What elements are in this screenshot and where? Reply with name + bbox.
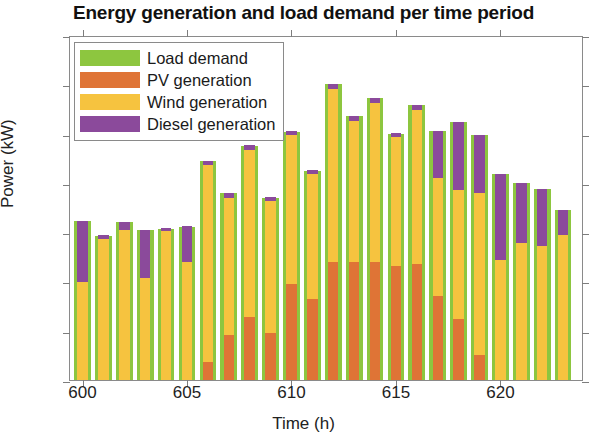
bar-group — [450, 35, 467, 380]
bar-generation-stack — [391, 35, 401, 380]
bar-segment-wind — [244, 150, 254, 317]
y-axis-tick — [63, 185, 70, 186]
legend-swatch-load-demand — [80, 50, 140, 66]
chart-figure: Energy generation and load demand per ti… — [0, 0, 607, 444]
y-axis-tick — [63, 333, 70, 334]
bar-segment-pv — [203, 362, 213, 380]
legend-label-wind-generation: Wind generation — [147, 94, 267, 111]
bar-generation-stack — [349, 35, 359, 380]
legend-label-diesel-generation: Diesel generation — [147, 116, 275, 133]
x-axis-tick-label: 615 — [382, 383, 410, 403]
bar-segment-diesel — [161, 228, 171, 231]
x-axis-tick-label: 605 — [173, 383, 201, 403]
y-axis-tick — [582, 382, 589, 383]
bar-segment-diesel — [307, 170, 317, 174]
y-axis-tick — [582, 333, 589, 334]
y-axis-tick — [63, 234, 70, 235]
bar-segment-diesel — [537, 189, 547, 246]
y-axis-tick — [582, 37, 589, 38]
y-axis-tick — [582, 136, 589, 137]
y-axis-title: Power (kW) — [0, 119, 18, 208]
chart-legend: Load demand PV generation Wind generatio… — [74, 42, 284, 141]
x-axis-tick — [396, 30, 397, 37]
bar-group — [555, 35, 572, 380]
bar-group — [513, 35, 530, 380]
bar-segment-wind — [453, 190, 463, 319]
y-axis-tick — [582, 185, 589, 186]
bar-generation-stack — [370, 35, 380, 380]
bar-segment-diesel — [244, 145, 254, 150]
bar-segment-wind — [328, 89, 338, 262]
y-axis-tick — [63, 37, 70, 38]
bar-segment-pv — [244, 317, 254, 380]
bar-segment-diesel — [224, 193, 234, 198]
bar-segment-pv — [286, 284, 296, 380]
bar-generation-stack — [537, 35, 547, 380]
y-axis-tick — [582, 86, 589, 87]
bar-segment-wind — [370, 103, 380, 262]
bar-segment-pv — [265, 333, 275, 380]
x-axis-tick — [291, 30, 292, 37]
y-axis-tick — [582, 234, 589, 235]
legend-item-load-demand: Load demand — [80, 47, 275, 69]
bar-group — [492, 35, 509, 380]
bar-segment-wind — [307, 174, 317, 299]
chart-title: Energy generation and load demand per ti… — [0, 2, 607, 24]
bar-segment-wind — [412, 110, 422, 264]
bar-segment-wind — [391, 137, 401, 266]
legend-swatch-pv-generation — [80, 72, 140, 88]
bar-generation-stack — [516, 35, 526, 380]
bar-segment-pv — [391, 266, 401, 380]
bar-segment-wind — [119, 230, 129, 380]
bar-segment-diesel — [140, 230, 150, 278]
bar-segment-wind — [349, 121, 359, 262]
bar-group — [408, 35, 425, 380]
bar-segment-pv — [307, 299, 317, 380]
bar-segment-pv — [474, 355, 484, 380]
bar-segment-wind — [537, 246, 547, 380]
y-axis-tick — [582, 283, 589, 284]
bar-generation-stack — [474, 35, 484, 380]
bar-segment-wind — [433, 178, 443, 296]
bar-segment-wind — [98, 239, 108, 380]
bar-generation-stack — [307, 35, 317, 380]
bar-segment-diesel — [433, 131, 443, 178]
bar-segment-wind — [265, 201, 275, 333]
x-axis-title: Time (h) — [0, 414, 607, 434]
bar-generation-stack — [558, 35, 568, 380]
bar-segment-wind — [495, 260, 505, 380]
bar-group — [325, 35, 342, 380]
legend-item-wind-generation: Wind generation — [80, 91, 275, 113]
bar-segment-diesel — [119, 222, 129, 230]
bar-generation-stack — [328, 35, 338, 380]
bar-segment-diesel — [370, 98, 380, 103]
bar-segment-diesel — [495, 174, 505, 260]
bar-segment-wind — [224, 198, 234, 335]
bar-segment-wind — [474, 193, 484, 356]
bar-generation-stack — [412, 35, 422, 380]
bar-segment-diesel — [77, 221, 87, 282]
bar-generation-stack — [433, 35, 443, 380]
bar-segment-pv — [433, 296, 443, 380]
bar-group — [429, 35, 446, 380]
bar-segment-pv — [224, 335, 234, 380]
bar-segment-wind — [77, 282, 87, 380]
bar-segment-diesel — [453, 122, 463, 190]
bar-segment-diesel — [265, 197, 275, 201]
bar-segment-wind — [161, 231, 171, 380]
bar-segment-wind — [203, 165, 213, 362]
legend-item-diesel-generation: Diesel generation — [80, 113, 275, 135]
bar-segment-diesel — [328, 84, 338, 89]
bar-segment-wind — [286, 135, 296, 285]
bar-segment-diesel — [558, 210, 568, 235]
bar-segment-wind — [140, 278, 150, 380]
bar-segment-diesel — [98, 235, 108, 239]
bar-segment-diesel — [412, 105, 422, 110]
legend-swatch-wind-generation — [80, 94, 140, 110]
x-axis-tick — [83, 30, 84, 37]
bar-group — [534, 35, 551, 380]
bar-segment-diesel — [182, 226, 192, 261]
x-axis-tick — [187, 30, 188, 37]
bar-segment-pv — [370, 262, 380, 380]
bar-segment-diesel — [474, 135, 484, 193]
